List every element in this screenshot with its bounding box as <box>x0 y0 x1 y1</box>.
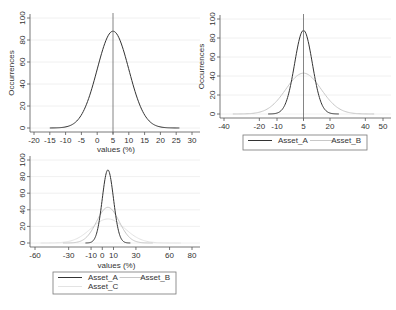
y-tick-label: 40 <box>208 71 217 80</box>
y-tick-label: 0 <box>18 240 27 245</box>
x-tick-label: -40 <box>218 122 230 131</box>
x-tick-label: 10 <box>109 251 118 260</box>
x-tick-label: -10 <box>271 122 283 131</box>
chart-asset-a-b-c: 020406080100-60-30-10010306080values (%)… <box>18 153 200 294</box>
x-tick-label: -60 <box>29 251 41 260</box>
x-axis-label: values (%) <box>97 145 135 154</box>
y-tick-label: 0 <box>208 111 217 116</box>
series-line-asset_a <box>50 31 180 128</box>
x-tick-label: -20 <box>28 136 40 145</box>
x-tick-label: -30 <box>63 251 75 260</box>
y-tick-label: 40 <box>18 205 27 214</box>
x-tick-label: -10 <box>60 136 72 145</box>
y-tick-label: 80 <box>18 172 27 181</box>
chart-asset-a-b: 020406080100-40-20-105204050OccurrencesA… <box>197 12 391 150</box>
x-tick-label: 20 <box>326 122 335 131</box>
x-tick-label: 0 <box>100 251 105 260</box>
x-tick-label: -10 <box>85 251 97 260</box>
y-tick-label: 80 <box>208 33 217 42</box>
legend-label: Asset_A <box>88 273 118 282</box>
y-tick-label: 100 <box>18 153 27 167</box>
y-tick-label: 60 <box>18 188 27 197</box>
y-tick-label: 20 <box>18 221 27 230</box>
y-tick-label: 80 <box>18 35 27 44</box>
legend-label: Asset_B <box>331 136 361 145</box>
y-tick-label: 100 <box>18 11 27 25</box>
x-tick-label: 50 <box>379 122 388 131</box>
y-axis-label: Occurrences <box>197 44 206 89</box>
y-axis-label: Occurrences <box>7 50 16 95</box>
legend-label: Asset_A <box>278 136 308 145</box>
x-tick-label: 80 <box>188 251 197 260</box>
x-tick-label: 60 <box>165 251 174 260</box>
charts-canvas: 020406080100-20-15-10-5051015202530Occur… <box>0 0 396 310</box>
x-tick-label: 30 <box>188 136 197 145</box>
x-axis-label: values (%) <box>98 261 136 270</box>
x-tick-label: 20 <box>156 136 165 145</box>
legend: Asset_AAsset_BAsset_C <box>53 272 176 294</box>
x-tick-label: -5 <box>78 136 86 145</box>
y-tick-label: 60 <box>208 52 217 61</box>
legend: Asset_AAsset_B <box>243 135 367 150</box>
y-tick-label: 0 <box>18 125 27 130</box>
x-tick-label: 5 <box>111 136 116 145</box>
y-tick-label: 100 <box>208 12 217 26</box>
x-tick-label: -15 <box>44 136 56 145</box>
series-line-asset_b <box>63 207 153 243</box>
y-tick-label: 40 <box>18 79 27 88</box>
chart-asset-a: 020406080100-20-15-10-5051015202530Occur… <box>7 11 200 154</box>
series-line-asset_c <box>41 219 181 243</box>
series-line-asset_a <box>85 170 130 243</box>
x-tick-label: 40 <box>361 122 370 131</box>
legend-label: Asset_B <box>140 273 170 282</box>
y-tick-label: 20 <box>208 90 217 99</box>
x-tick-label: 30 <box>131 251 140 260</box>
y-tick-label: 60 <box>18 57 27 66</box>
x-tick-label: -20 <box>254 122 266 131</box>
x-tick-label: 10 <box>124 136 133 145</box>
x-tick-label: 5 <box>301 122 306 131</box>
x-tick-label: 25 <box>172 136 181 145</box>
y-tick-label: 20 <box>18 101 27 110</box>
x-tick-label: 0 <box>95 136 100 145</box>
legend-label: Asset_C <box>88 282 118 291</box>
x-tick-label: 15 <box>140 136 149 145</box>
